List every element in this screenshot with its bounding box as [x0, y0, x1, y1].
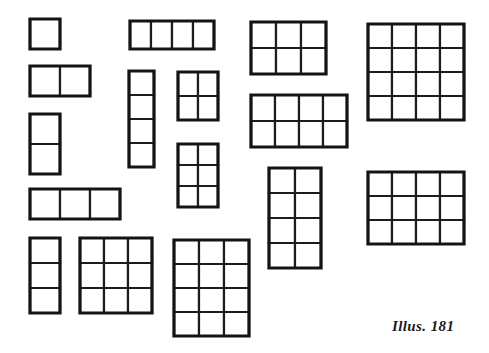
grid-cell — [251, 121, 275, 147]
grid-cell — [440, 24, 464, 48]
grid-1x4 — [127, 69, 156, 169]
grid-4x1 — [128, 19, 216, 51]
grid-cell — [392, 172, 416, 196]
grid-cell — [416, 220, 440, 244]
grid-cell — [199, 288, 224, 312]
grid-cell — [151, 21, 172, 49]
grid-cell — [30, 238, 60, 263]
grid-cell — [275, 121, 299, 147]
grid-cell — [174, 312, 199, 336]
grid-cell — [269, 243, 295, 268]
grid-cell — [178, 144, 198, 165]
grid-cell — [128, 263, 152, 288]
grid-cell — [299, 95, 323, 121]
grid-cell — [198, 165, 218, 186]
grid-1x2 — [28, 112, 62, 176]
grid-cell — [416, 24, 440, 48]
grid-cell — [440, 72, 464, 96]
grid-cell — [129, 143, 154, 167]
grid-cell — [276, 48, 301, 74]
grid-cell — [198, 72, 218, 96]
grid-cell — [80, 263, 104, 288]
grid-cell — [440, 220, 464, 244]
grid-4x4 — [366, 22, 466, 122]
grid-cell — [198, 186, 218, 207]
grid-cell — [299, 121, 323, 147]
grid-cell — [392, 48, 416, 72]
grid-cell — [416, 72, 440, 96]
grid-cell — [295, 243, 321, 268]
grid-cell — [368, 96, 392, 120]
grid-cell — [392, 196, 416, 220]
grid-2x2 — [176, 70, 220, 122]
grid-cell — [392, 96, 416, 120]
grid-cell — [60, 189, 90, 219]
grid-cell — [130, 21, 151, 49]
grid-cell — [368, 172, 392, 196]
grid-4x3 — [366, 170, 466, 246]
grid-cell — [295, 193, 321, 218]
grid-cell — [368, 196, 392, 220]
grid-cell — [174, 264, 199, 288]
grid-cell — [129, 71, 154, 95]
grid-cell — [193, 21, 214, 49]
grid-cell — [392, 72, 416, 96]
grid-cell — [178, 72, 198, 96]
figure-caption: Illus. 181 — [392, 318, 454, 335]
grid-cell — [269, 193, 295, 218]
grid-cell — [295, 218, 321, 243]
grid-cell — [199, 240, 224, 264]
grid-3x1 — [28, 187, 122, 221]
grid-cell — [104, 238, 128, 263]
grid-cell — [440, 96, 464, 120]
grid-cell — [174, 240, 199, 264]
grid-cell — [80, 238, 104, 263]
grid-1x1 — [28, 17, 62, 51]
grid-2x3 — [176, 142, 220, 209]
grid-cell — [30, 114, 60, 144]
grid-cell — [368, 72, 392, 96]
grid-cell — [269, 218, 295, 243]
grid-cell — [30, 144, 60, 174]
grid-cell — [224, 288, 249, 312]
grid-cell — [30, 19, 60, 49]
grid-1x3 — [28, 236, 62, 315]
grid-cell — [30, 263, 60, 288]
illustration-page: Illus. 181 — [0, 0, 489, 353]
grid-cell — [368, 48, 392, 72]
grid-cell — [323, 121, 347, 147]
grid-cell — [128, 238, 152, 263]
grid-cell — [128, 288, 152, 313]
grid-cell — [129, 119, 154, 143]
grid-cell — [440, 196, 464, 220]
grid-cell — [90, 189, 120, 219]
grid-3x4 — [172, 238, 251, 338]
grid-cell — [60, 66, 90, 96]
grid-cell — [199, 264, 224, 288]
grid-cell — [224, 240, 249, 264]
grid-cell — [368, 220, 392, 244]
grid-cell — [198, 144, 218, 165]
grid-3x3 — [78, 236, 154, 315]
grid-cell — [224, 312, 249, 336]
grid-cell — [178, 96, 198, 120]
grid-cell — [104, 263, 128, 288]
grid-cell — [416, 96, 440, 120]
grid-2x4 — [267, 166, 323, 270]
grid-cell — [251, 95, 275, 121]
grid-cell — [323, 95, 347, 121]
grid-cell — [178, 165, 198, 186]
grid-cell — [440, 172, 464, 196]
grid-cell — [301, 22, 326, 48]
grid-cell — [104, 288, 128, 313]
grid-cell — [224, 264, 249, 288]
grid-cell — [251, 48, 276, 74]
grid-cell — [178, 186, 198, 207]
grid-cell — [416, 172, 440, 196]
grid-cell — [301, 48, 326, 74]
grid-cell — [392, 220, 416, 244]
grid-cell — [269, 168, 295, 193]
grid-cell — [172, 21, 193, 49]
grid-cell — [276, 22, 301, 48]
grid-cell — [416, 196, 440, 220]
